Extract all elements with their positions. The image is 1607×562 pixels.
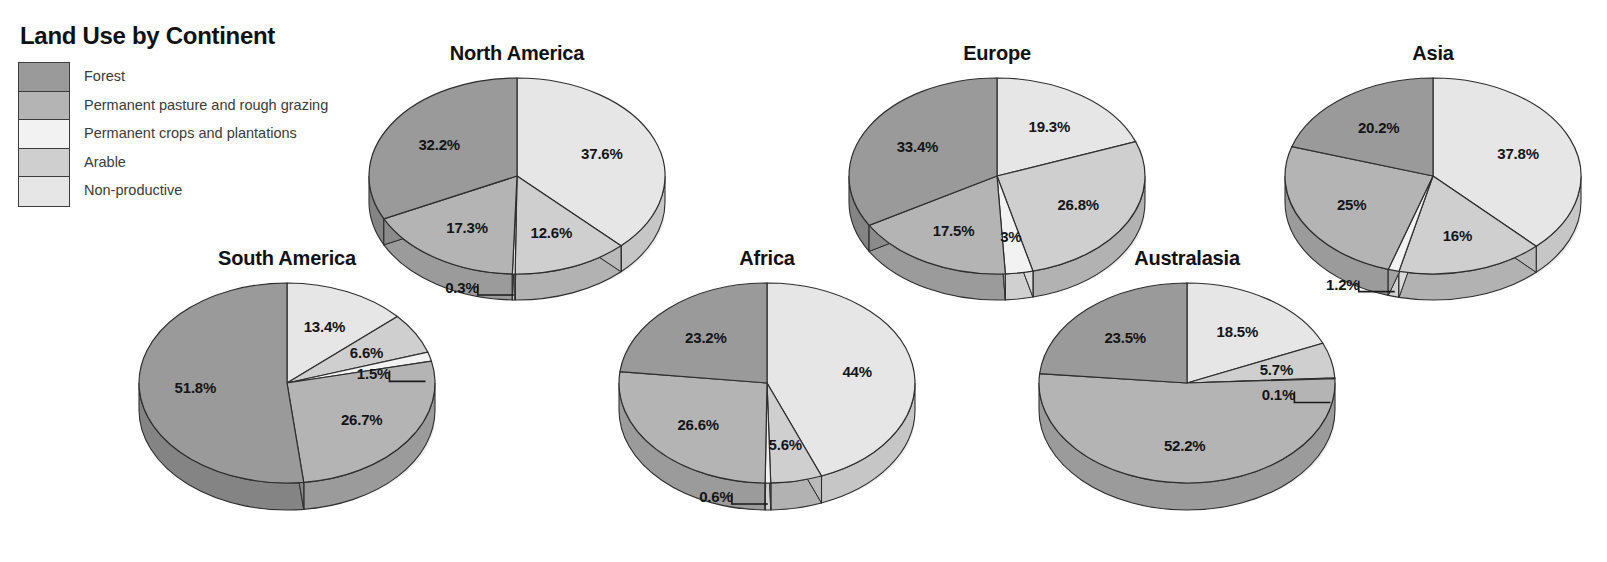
legend-swatch-4 (19, 177, 69, 206)
pie-value-label-asia-1: 25% (1337, 196, 1366, 213)
pie-value-label-europe-1: 17.5% (933, 221, 975, 238)
legend-label-2: Permanent crops and plantations (84, 119, 328, 148)
legend-swatch-column (18, 62, 70, 207)
pie-value-label-africa-1: 26.6% (677, 416, 719, 433)
pie-value-label-asia-4: 37.8% (1497, 145, 1539, 162)
chart-canvas: Land Use by Continent ForestPermanent pa… (0, 0, 1607, 562)
pie-value-label-africa-2: 0.6% (699, 487, 732, 504)
pie-value-label-europe-2: 3% (1000, 228, 1021, 245)
pie-title-africa: Africa (602, 247, 932, 270)
pie-value-label-africa-4: 44% (842, 363, 871, 380)
pie-value-label-south-america-4: 13.4% (304, 318, 346, 335)
pie-value-label-north-america-3: 12.6% (531, 224, 573, 241)
pie-value-label-africa-0: 23.2% (685, 328, 727, 345)
pie-title-asia: Asia (1268, 42, 1598, 65)
pie-title-north-america: North America (352, 42, 682, 65)
legend: Land Use by Continent ForestPermanent pa… (18, 22, 328, 207)
pie-value-label-south-america-2: 1.5% (357, 365, 390, 382)
pie-value-label-asia-0: 20.2% (1358, 119, 1400, 136)
legend-swatch-2 (19, 120, 69, 149)
legend-swatch-1 (19, 92, 69, 121)
pie-value-label-australasia-0: 23.5% (1104, 329, 1146, 346)
pie-chart-africa: Africa44%5.6%0.6%26.6%23.2% (602, 245, 932, 515)
pie-chart-australasia: Australasia18.5%5.7%0.1%52.2%23.5% (1022, 245, 1352, 515)
pie-svg-south-america (122, 269, 452, 539)
pie-svg-africa (602, 269, 932, 539)
legend-swatch-0 (19, 63, 69, 92)
legend-label-column: ForestPermanent pasture and rough grazin… (84, 62, 328, 205)
legend-label-3: Arable (84, 148, 328, 177)
pie-value-label-australasia-3: 5.7% (1260, 360, 1293, 377)
pie-value-label-europe-0: 33.4% (897, 137, 939, 154)
pie-title-europe: Europe (832, 42, 1162, 65)
pie-value-label-north-america-1: 17.3% (446, 218, 488, 235)
pie-value-label-south-america-1: 26.7% (341, 410, 383, 427)
legend-label-4: Non-productive (84, 176, 328, 205)
pie-value-label-asia-3: 16% (1443, 226, 1472, 243)
pie-value-label-europe-4: 19.3% (1029, 118, 1071, 135)
pie-value-label-south-america-3: 6.6% (350, 344, 383, 361)
pie-value-label-north-america-4: 37.6% (581, 144, 623, 161)
pie-svg-australasia (1022, 269, 1352, 539)
pie-value-label-australasia-2: 0.1% (1262, 386, 1295, 403)
legend-label-0: Forest (84, 62, 328, 91)
pie-title-south-america: South America (122, 247, 452, 270)
legend-label-1: Permanent pasture and rough grazing (84, 91, 328, 120)
pie-value-label-africa-3: 5.6% (769, 435, 802, 452)
pie-value-label-australasia-4: 18.5% (1217, 323, 1259, 340)
legend-swatch-3 (19, 149, 69, 178)
chart-title: Land Use by Continent (20, 22, 328, 50)
pie-chart-south-america: South America13.4%6.6%1.5%26.7%51.8% (122, 245, 452, 515)
pie-value-label-north-america-0: 32.2% (418, 135, 460, 152)
pie-title-australasia: Australasia (1022, 247, 1352, 270)
pie-value-label-europe-3: 26.8% (1057, 196, 1099, 213)
pie-value-label-south-america-0: 51.8% (175, 378, 217, 395)
pie-value-label-australasia-1: 52.2% (1164, 436, 1206, 453)
